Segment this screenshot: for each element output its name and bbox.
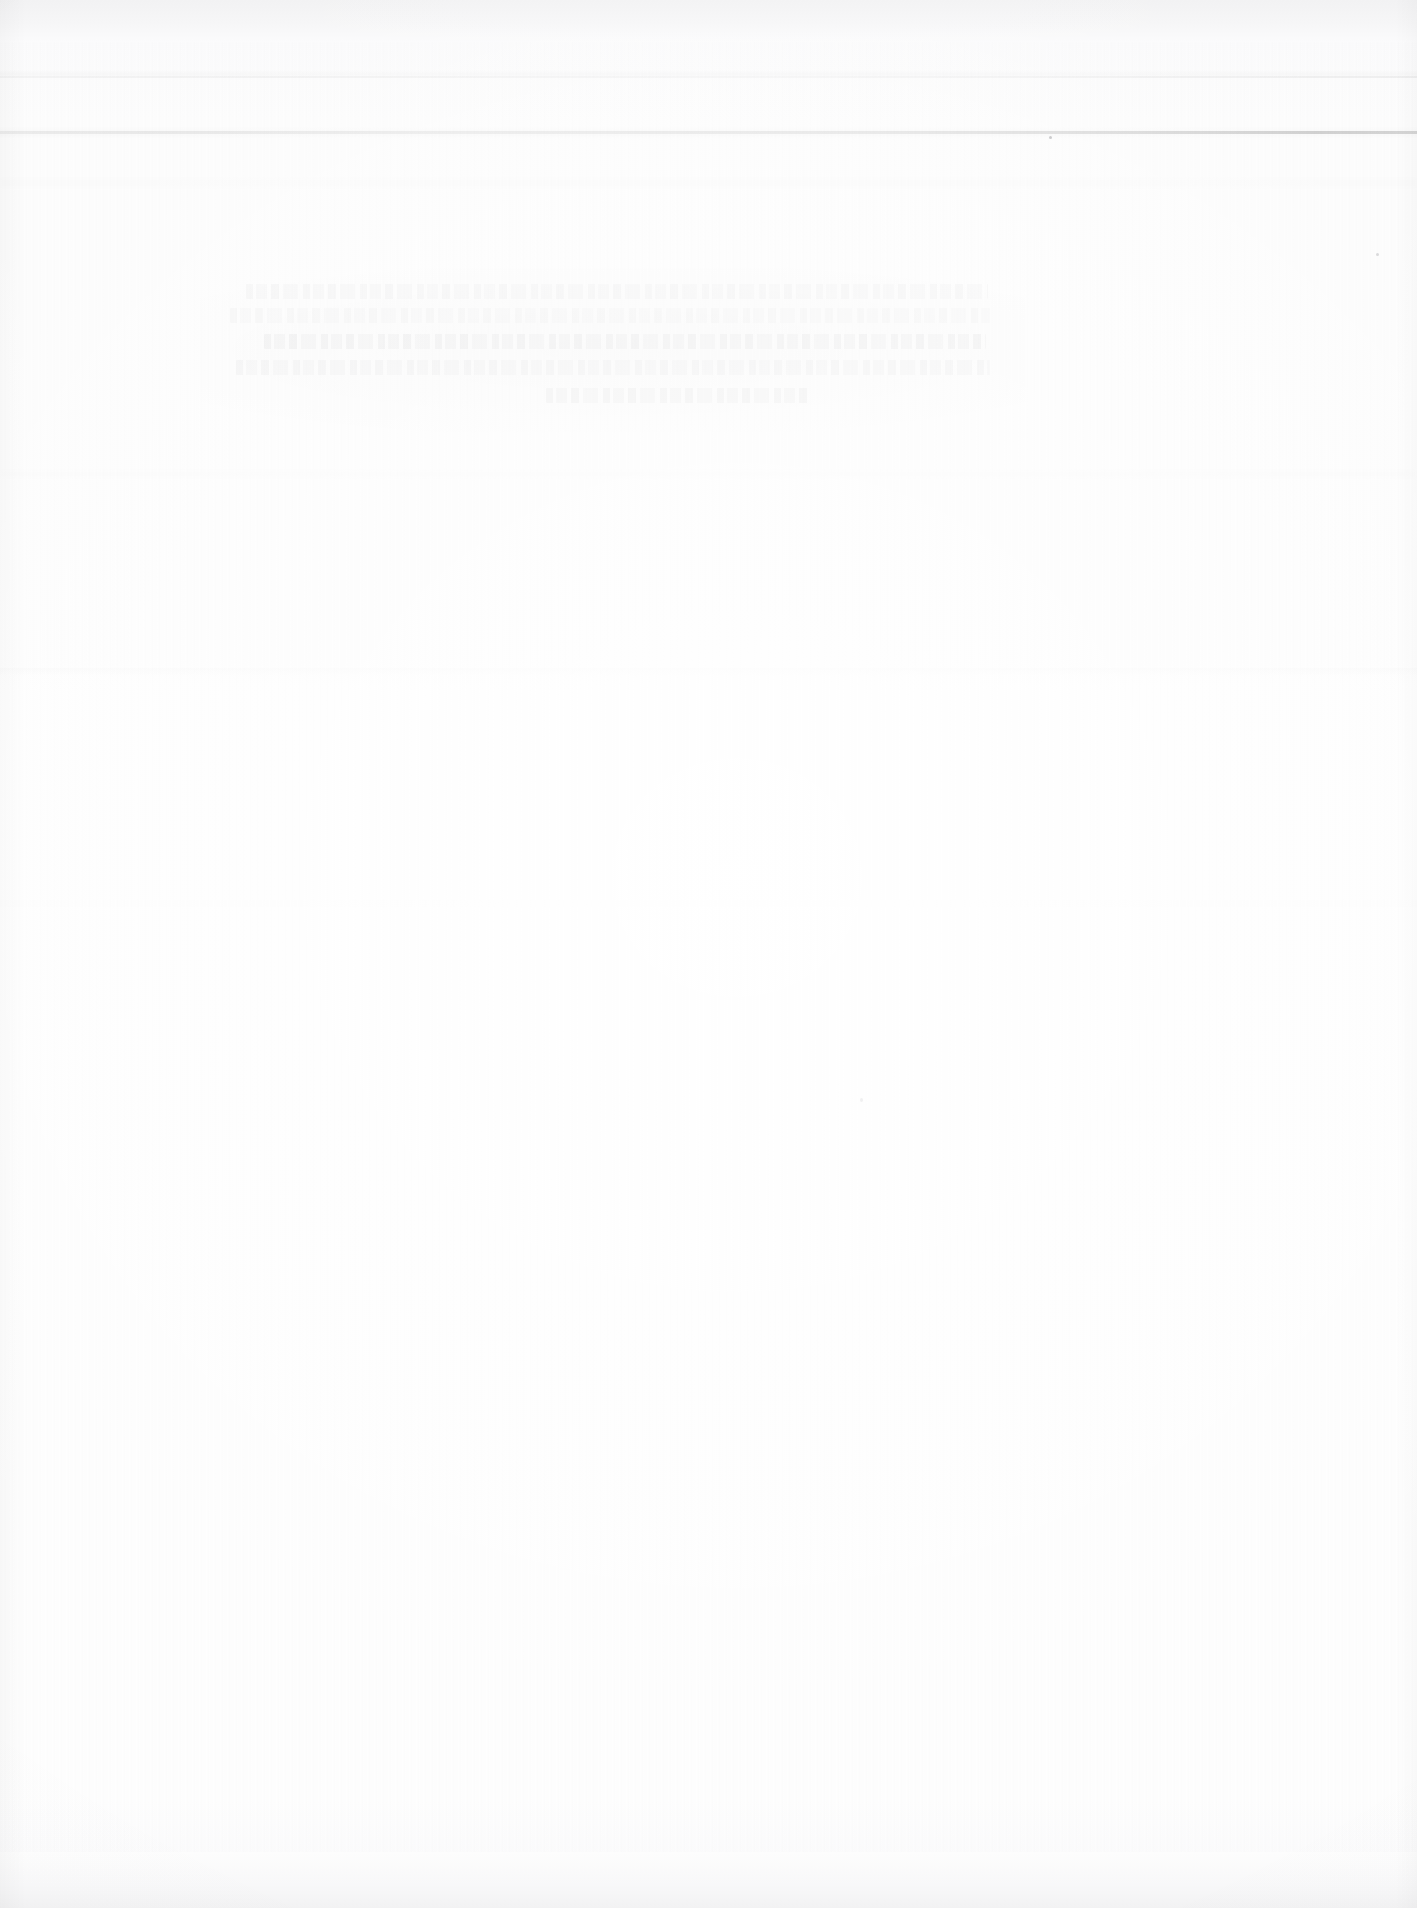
scan-smear-band: [0, 470, 1417, 478]
tonal-boundary-line: [0, 668, 1417, 676]
scan-edge-shadow-right: [1395, 0, 1417, 1908]
scan-edge-band-bottom: [0, 1852, 1417, 1908]
ghost-text-line: [246, 284, 988, 299]
ghost-text-transcript: [228, 282, 229, 283]
horizontal-rule-upper: [0, 76, 1417, 78]
ghost-text-line: [546, 388, 808, 403]
ghost-text-block: [228, 282, 1004, 414]
ghost-text-line: [236, 360, 990, 375]
dust-speck: [1049, 136, 1052, 139]
horizontal-rule-main: [0, 131, 1417, 134]
dust-speck: [1376, 253, 1379, 256]
scan-edge-band-top: [0, 0, 1417, 42]
scan-smear-band: [0, 178, 1417, 188]
scan-smear-band: [0, 900, 1417, 907]
ghost-text-line: [264, 334, 986, 349]
scan-edge-shadow-left: [0, 0, 26, 1908]
scanned-page: [0, 0, 1417, 1908]
dust-speck: [860, 1098, 863, 1102]
ghost-text-line: [230, 308, 990, 323]
